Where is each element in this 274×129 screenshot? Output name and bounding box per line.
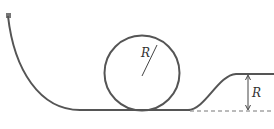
loop-radius-label: R (140, 46, 150, 60)
track-descent (8, 16, 190, 110)
diagram-canvas: R R (0, 0, 274, 129)
step-height-label: R (251, 86, 261, 100)
track-ramp (188, 74, 274, 110)
